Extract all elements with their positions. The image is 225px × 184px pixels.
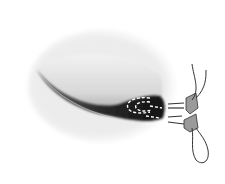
surgical-illustration (0, 0, 225, 184)
pledget-upper (186, 93, 198, 114)
pledget-lower (184, 114, 198, 132)
suture-threads (192, 64, 208, 163)
